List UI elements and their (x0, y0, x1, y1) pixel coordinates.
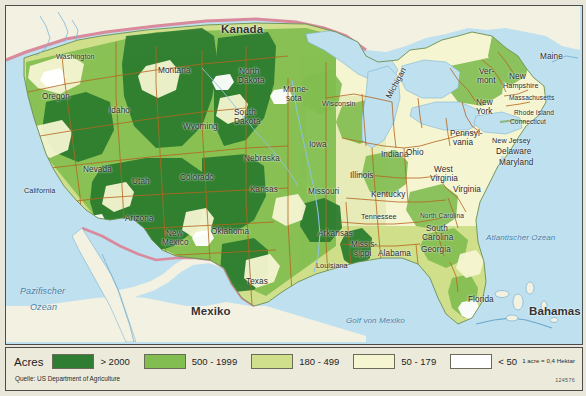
legend-code: 124576 (555, 377, 575, 383)
legend-label-2: 180 - 499 (299, 356, 339, 367)
legend-swatch-2 (251, 354, 293, 369)
legend-items: Acres > 2000500 - 1999180 - 49950 - 179<… (14, 354, 531, 369)
legend-swatch-3 (353, 354, 395, 369)
legend-item-3: 50 - 179 (353, 354, 436, 369)
legend-label-1: 500 - 1999 (192, 356, 237, 367)
legend-label-3: 50 - 179 (401, 356, 436, 367)
map-page: WashingtonOregonIdahoMontanaWyomingNorth… (0, 0, 586, 396)
legend-label-0: > 2000 (100, 356, 129, 367)
legend-item-2: 180 - 499 (251, 354, 339, 369)
map-legend: Acres > 2000500 - 1999180 - 49950 - 179<… (5, 347, 583, 391)
map-frame: WashingtonOregonIdahoMontanaWyomingNorth… (5, 5, 583, 345)
legend-swatch-0 (52, 354, 94, 369)
legend-swatch-4 (450, 354, 492, 369)
legend-item-1: 500 - 1999 (144, 354, 237, 369)
legend-conversion-note: 1 acre = 0,4 Hektar (522, 357, 575, 364)
legend-source: Quelle: US Department of Agriculture (15, 375, 120, 382)
legend-swatch-1 (144, 354, 186, 369)
legend-label-4: < 50 (498, 356, 517, 367)
legend-item-4: < 50 (450, 354, 517, 369)
usa-agriculture-map (6, 6, 580, 342)
legend-title: Acres (14, 356, 43, 368)
legend-item-0: > 2000 (52, 354, 129, 369)
